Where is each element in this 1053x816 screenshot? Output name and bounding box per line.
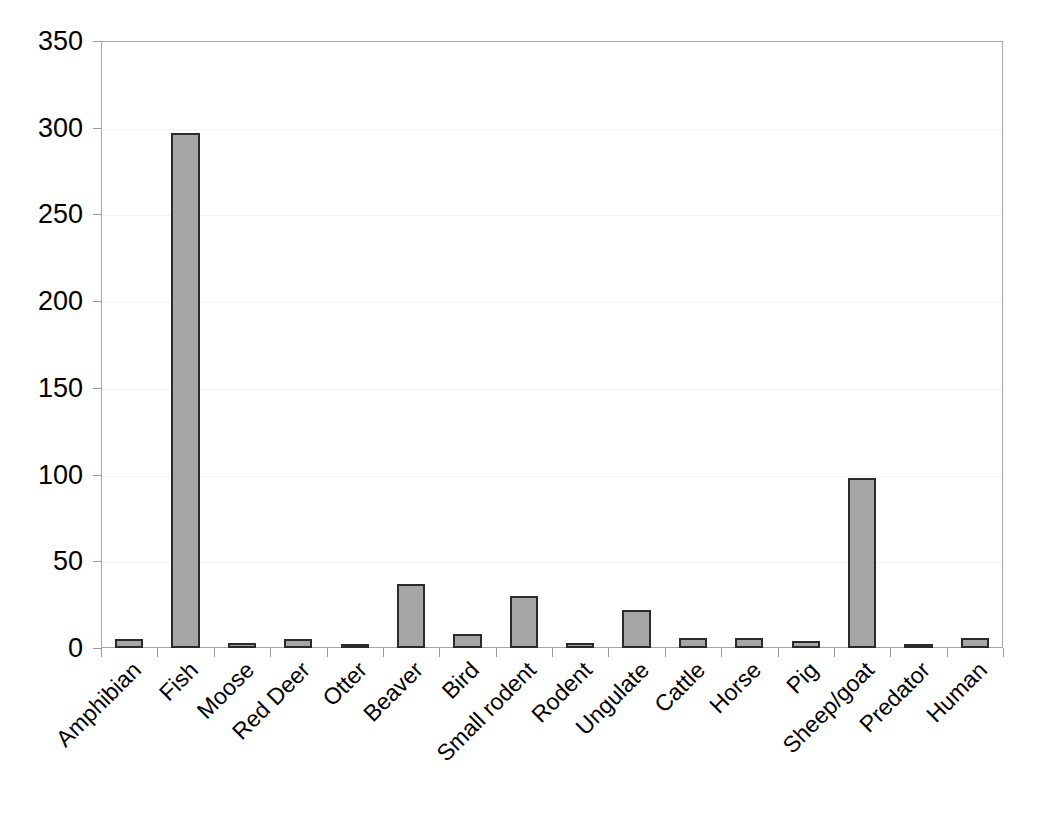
- y-tick-label: 100: [38, 461, 83, 488]
- bar-slot: [214, 41, 270, 648]
- bar-slot: [778, 41, 834, 648]
- bar-slot: [327, 41, 383, 648]
- bar[interactable]: [848, 478, 876, 648]
- bar[interactable]: [679, 638, 707, 648]
- bar-slot: [890, 41, 946, 648]
- y-tick-label: 250: [38, 201, 83, 228]
- y-tick-label: 50: [53, 548, 83, 575]
- bar[interactable]: [171, 133, 199, 648]
- x-tick-mark: [1003, 648, 1004, 657]
- bar[interactable]: [284, 639, 312, 648]
- bar[interactable]: [510, 596, 538, 648]
- bar-slot: [834, 41, 890, 648]
- y-tick-label: 200: [38, 288, 83, 315]
- bar-slot: [608, 41, 664, 648]
- bar-slot: [496, 41, 552, 648]
- bar-slot: [439, 41, 495, 648]
- y-tick-label: 300: [38, 114, 83, 141]
- bar-slot: [665, 41, 721, 648]
- bar[interactable]: [622, 610, 650, 648]
- bar-slot: [947, 41, 1003, 648]
- y-tick-label: 0: [68, 635, 83, 662]
- bar-slot: [721, 41, 777, 648]
- bar[interactable]: [397, 584, 425, 648]
- bar-slot: [383, 41, 439, 648]
- bar-slot: [270, 41, 326, 648]
- bar-slot: [157, 41, 213, 648]
- bar-slot: [552, 41, 608, 648]
- bar[interactable]: [735, 638, 763, 648]
- bar-slot: [101, 41, 157, 648]
- y-axis: 050100150200250300350: [0, 0, 101, 816]
- y-tick-label: 350: [38, 28, 83, 55]
- bar[interactable]: [453, 634, 481, 648]
- bar[interactable]: [792, 641, 820, 648]
- y-tick-label: 150: [38, 374, 83, 401]
- bars-layer: [101, 41, 1003, 648]
- bar-chart: 050100150200250300350 AmphibianFishMoose…: [0, 0, 1053, 816]
- bar[interactable]: [115, 639, 143, 648]
- bar[interactable]: [961, 638, 989, 648]
- x-axis-labels: AmphibianFishMooseRed DeerOtterBeaverBir…: [101, 648, 1003, 778]
- caption-strip: [0, 796, 1053, 816]
